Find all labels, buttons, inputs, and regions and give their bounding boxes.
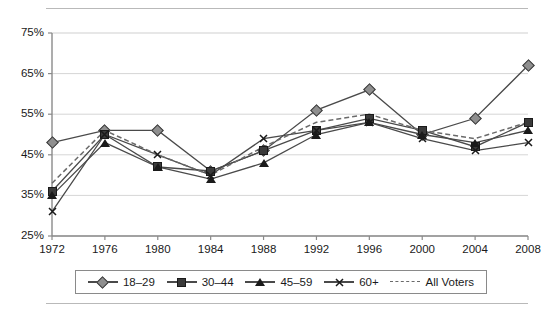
x-axis-label: 1980 <box>135 243 181 255</box>
legend-key-x-icon <box>324 276 354 288</box>
series-line-45-59 <box>52 122 528 195</box>
marker-diamond-icon <box>97 276 110 289</box>
x-axis-label: 1976 <box>82 243 128 255</box>
legend-label: 60+ <box>359 276 379 288</box>
x-axis-label: 2004 <box>452 243 498 255</box>
legend-key-dashed-line <box>390 276 420 288</box>
marker-triangle <box>259 159 269 167</box>
marker-square-icon <box>177 278 186 287</box>
marker-triangle <box>100 139 110 147</box>
legend-item-45-59[interactable]: 45–59 <box>245 276 312 288</box>
legend-item-60-[interactable]: 60+ <box>324 276 379 288</box>
legend-label: 30–44 <box>202 276 234 288</box>
marker-x <box>471 146 480 155</box>
chart-legend: 18–2930–4445–5960+All Voters <box>75 270 487 294</box>
legend-key-square-icon <box>167 276 197 288</box>
legend-label: 45–59 <box>280 276 312 288</box>
marker-triangle <box>47 191 57 199</box>
marker-x <box>524 138 533 147</box>
legend-key-diamond-icon <box>88 276 118 288</box>
marker-triangle <box>153 163 163 171</box>
marker-x-icon <box>335 278 344 287</box>
y-axis-label: 75% <box>0 27 44 39</box>
x-axis-label: 1992 <box>293 243 339 255</box>
marker-x <box>153 150 162 159</box>
legend-item-all-voters[interactable]: All Voters <box>390 276 474 288</box>
legend-item-30-44[interactable]: 30–44 <box>167 276 234 288</box>
chart-page: 25%35%45%55%65%75% 197219761980198419881… <box>0 0 551 309</box>
x-axis-label: 1972 <box>29 243 75 255</box>
legend-item-18-29[interactable]: 18–29 <box>88 276 155 288</box>
marker-x <box>259 134 268 143</box>
y-axis-label: 25% <box>0 230 44 242</box>
marker-triangle <box>523 126 533 134</box>
legend-key-triangle-icon <box>245 276 275 288</box>
legend-label: 18–29 <box>123 276 155 288</box>
marker-triangle-icon <box>255 278 265 286</box>
marker-x <box>100 130 109 139</box>
marker-x <box>365 118 374 127</box>
marker-x <box>48 207 57 216</box>
line-chart-plot <box>0 0 551 309</box>
y-axis-label: 65% <box>0 68 44 80</box>
marker-x <box>418 134 427 143</box>
marker-x <box>206 171 215 180</box>
x-axis-label: 1996 <box>346 243 392 255</box>
y-axis-label: 55% <box>0 108 44 120</box>
x-axis-label: 1984 <box>188 243 234 255</box>
legend-label: All Voters <box>425 276 474 288</box>
marker-x <box>312 126 321 135</box>
x-axis-label: 1988 <box>241 243 287 255</box>
y-axis-label: 35% <box>0 189 44 201</box>
x-axis-label: 2000 <box>399 243 445 255</box>
marker-square <box>259 146 268 155</box>
y-axis-label: 45% <box>0 149 44 161</box>
x-axis-label: 2008 <box>505 243 551 255</box>
